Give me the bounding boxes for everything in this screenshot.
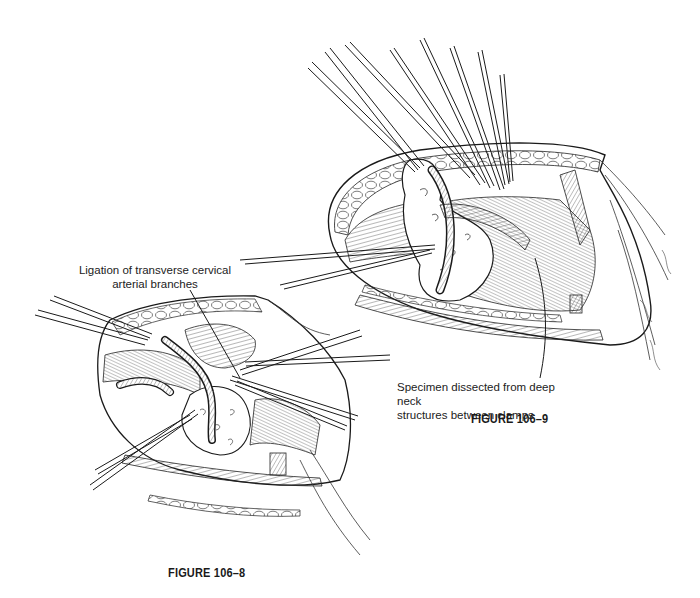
- figure-106-8-illustration: [35, 290, 390, 555]
- annotation-ligation: Ligation of transverse cervical arterial…: [75, 263, 235, 291]
- illustration-canvas: [0, 0, 700, 598]
- annotation-ligation-line1: Ligation of transverse cervical: [75, 263, 235, 277]
- figure-caption-106-8: FIGURE 106–8: [168, 566, 245, 580]
- annotation-specimen-line1: Specimen dissected from deep neck: [397, 380, 577, 408]
- annotation-ligation-line2: arterial branches: [75, 277, 235, 291]
- figure-caption-106-9: FIGURE 106–9: [471, 412, 548, 426]
